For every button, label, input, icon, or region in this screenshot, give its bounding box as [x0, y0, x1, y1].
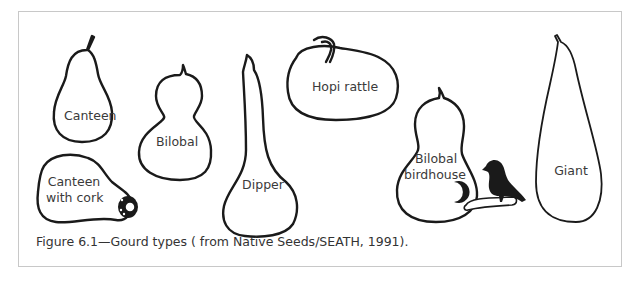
giant-gourd-icon — [536, 35, 602, 222]
bird-icon — [482, 160, 526, 202]
bilobal-label: Bilobal — [154, 134, 200, 150]
hopi-rattle-label: Hopi rattle — [310, 79, 380, 95]
canteen-gourd-icon — [54, 36, 112, 142]
figure-caption: Figure 6.1—Gourd types ( from Native See… — [36, 234, 408, 249]
giant-label: Giant — [551, 163, 591, 179]
dipper-gourd-icon — [223, 55, 297, 237]
canteen-with-cork-label-line2: with cork — [46, 190, 102, 206]
bilobal-gourd-icon — [139, 65, 211, 180]
canteen-with-cork-label-line1: Canteen — [46, 174, 102, 190]
canteen-label: Canteen — [64, 108, 110, 124]
dipper-label: Dipper — [240, 177, 286, 193]
bilobal-birdhouse-label-line2: birdhouse — [404, 167, 464, 183]
bilobal-birdhouse-label-line1: Bilobal — [406, 151, 466, 167]
